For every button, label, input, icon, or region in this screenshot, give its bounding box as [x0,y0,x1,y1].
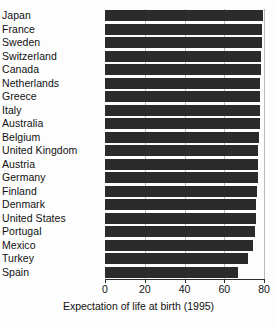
category-label: France [2,23,98,37]
category-labels: JapanFranceSwedenSwitzerlandCanadaNether… [0,9,102,279]
bar [105,105,260,116]
bar [105,118,260,129]
x-axis-label: Expectation of life at birth (1995) [0,300,277,312]
category-label: Australia [2,117,98,131]
x-tick-label: 0 [90,283,120,295]
bar-chart-figure: JapanFranceSwedenSwitzerlandCanadaNether… [0,0,277,328]
bar [105,24,262,35]
category-label: Finland [2,185,98,199]
category-label: Sweden [2,36,98,50]
category-label: Japan [2,9,98,23]
category-label: Switzerland [2,50,98,64]
gridline [264,9,265,279]
category-label: Spain [2,266,98,280]
bar [105,213,256,224]
bar [105,186,257,197]
category-label: Portugal [2,225,98,239]
bar [105,37,262,48]
category-label: Austria [2,158,98,172]
bar [105,64,261,75]
bar [105,132,259,143]
bar [105,172,258,183]
category-label: United Kingdom [2,144,98,158]
category-label: Denmark [2,198,98,212]
bar [105,91,260,102]
bar [105,78,260,89]
category-label: United States [2,212,98,226]
category-label: Canada [2,63,98,77]
bar [105,159,258,170]
category-label: Mexico [2,239,98,253]
category-label: Greece [2,90,98,104]
bar [105,145,258,156]
bar [105,253,248,264]
category-label: Netherlands [2,77,98,91]
x-tick-label: 60 [209,283,239,295]
bar [105,10,263,21]
bar [105,51,261,62]
bar [105,199,256,210]
bar [105,240,253,251]
x-tick-label: 80 [249,283,277,295]
plot-area [105,9,264,279]
gridline [185,9,186,279]
category-label: Belgium [2,131,98,145]
x-tick-label: 20 [130,283,160,295]
bar [105,267,238,278]
category-label: Italy [2,104,98,118]
category-label: Turkey [2,252,98,266]
gridline [224,9,225,279]
gridline [145,9,146,279]
x-tick-label: 40 [170,283,200,295]
bar [105,226,255,237]
category-label: Germany [2,171,98,185]
